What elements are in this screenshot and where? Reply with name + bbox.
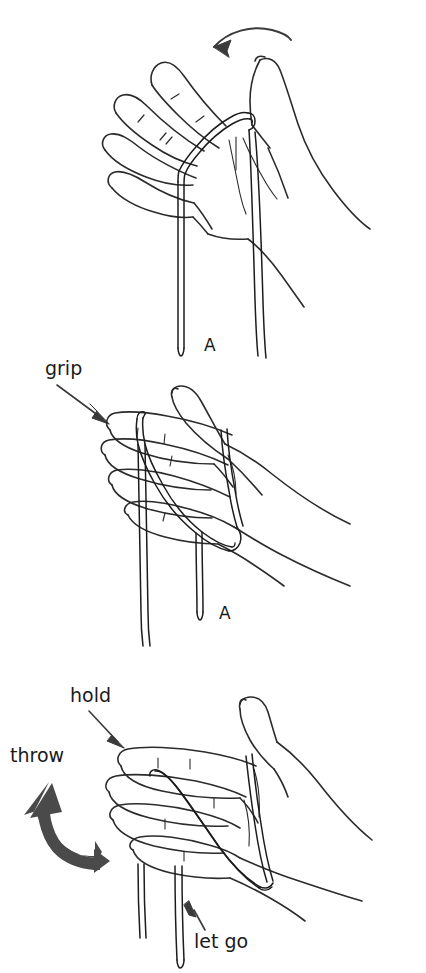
panel-a-caption: A xyxy=(204,335,216,355)
figure-sheet: A grip xyxy=(0,0,426,973)
throw-label: throw xyxy=(10,744,64,766)
hold-label: hold xyxy=(70,684,111,706)
page-background xyxy=(0,0,426,973)
instructional-illustration: A grip xyxy=(0,0,426,973)
panel-b-caption: A xyxy=(219,603,231,623)
let-go-label: let go xyxy=(194,930,248,952)
grip-label: grip xyxy=(45,357,82,379)
